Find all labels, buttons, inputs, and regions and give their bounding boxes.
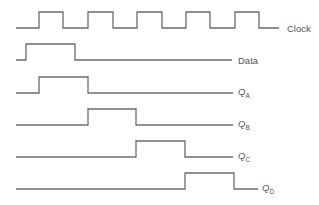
data-waveform: [16, 44, 232, 60]
qd-waveform: [16, 173, 258, 189]
qa-label-sub: A: [245, 92, 249, 99]
qb-label-sub: B: [245, 124, 249, 131]
timing-diagram: [0, 0, 319, 205]
data-label-text: Data: [238, 55, 258, 66]
qa-waveform: [16, 77, 233, 93]
clock-label: Clock: [287, 24, 311, 34]
qd-label: QD: [262, 183, 274, 193]
qb-label: QB: [238, 119, 250, 129]
qc-label: QC: [238, 151, 250, 161]
qc-label-sub: C: [245, 156, 250, 163]
clock-waveform: [16, 12, 279, 28]
clock-label-text: Clock: [287, 23, 311, 34]
qb-waveform: [16, 109, 233, 125]
qd-label-sub: D: [269, 188, 274, 195]
data-label: Data: [238, 56, 258, 66]
qa-label: QA: [238, 87, 250, 97]
qc-waveform: [16, 141, 233, 157]
